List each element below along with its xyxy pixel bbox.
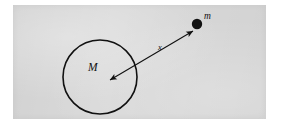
distance-label: x [157,42,162,52]
diagram-canvas: M m x [0,0,282,131]
figure-root: M m x [0,0,282,131]
large-mass-circle [63,40,137,114]
separation-distance-arrow [110,31,193,80]
large-mass-label: M [87,61,99,73]
point-mass-dot [192,19,202,29]
point-mass-label: m [204,11,211,21]
